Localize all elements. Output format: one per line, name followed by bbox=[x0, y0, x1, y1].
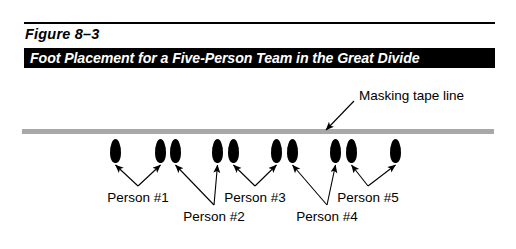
person-2-leader-arrow bbox=[214, 165, 218, 205]
figure-title: Foot Placement for a Five-Person Team in… bbox=[30, 50, 420, 66]
person-label-1: Person #1 bbox=[107, 190, 169, 205]
masking-tape-arrow bbox=[326, 101, 354, 130]
person-1-leader-arrow bbox=[138, 165, 161, 186]
person-3-leader-arrow bbox=[255, 165, 277, 186]
person-label-3: Person #3 bbox=[224, 190, 286, 205]
footprint bbox=[228, 139, 239, 163]
person-label-5: Person #5 bbox=[337, 190, 399, 205]
person-label-4: Person #4 bbox=[296, 209, 358, 224]
footprint bbox=[110, 139, 121, 163]
person-3-leader-arrow bbox=[234, 165, 256, 186]
person-2-leader-arrow bbox=[176, 165, 215, 205]
footprint bbox=[271, 139, 282, 163]
footprint bbox=[330, 139, 341, 163]
masking-tape-label: Masking tape line bbox=[359, 88, 464, 103]
person-5-leader-arrow bbox=[352, 165, 369, 186]
footprint bbox=[390, 139, 401, 163]
masking-tape-line bbox=[22, 129, 494, 134]
person-5-leader-arrow bbox=[368, 165, 396, 186]
footprint bbox=[212, 139, 223, 163]
footprint bbox=[346, 139, 357, 163]
figure-title-bar: Foot Placement for a Five-Person Team in… bbox=[24, 48, 495, 68]
footprint bbox=[155, 139, 166, 163]
person-4-leader-arrow bbox=[327, 165, 336, 205]
figure-container: Figure 8–3 Foot Placement for a Five-Per… bbox=[0, 0, 516, 249]
figure-number: Figure 8–3 bbox=[25, 26, 100, 42]
header-rule bbox=[24, 22, 495, 24]
person-1-leader-arrow bbox=[116, 165, 139, 186]
person-label-2: Person #2 bbox=[183, 209, 245, 224]
footprint bbox=[170, 139, 181, 163]
person-4-leader-arrow bbox=[293, 165, 328, 205]
footprint bbox=[287, 139, 298, 163]
